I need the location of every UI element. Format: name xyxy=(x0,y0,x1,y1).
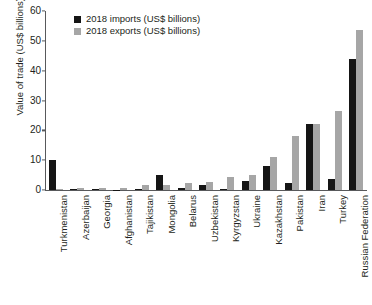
bar-exports xyxy=(142,185,149,190)
bars-layer xyxy=(45,11,367,190)
bar-imports xyxy=(178,188,185,190)
x-label-cell: Belarus xyxy=(174,193,195,305)
x-label-cell: Russian Federation xyxy=(346,193,367,305)
bar-imports xyxy=(199,185,206,190)
legend-item-exports: 2018 exports (US$ billions) xyxy=(74,26,200,36)
bar-imports xyxy=(135,189,142,190)
bar-group xyxy=(260,11,281,190)
bar-imports xyxy=(220,189,227,190)
bar-group xyxy=(66,11,87,190)
legend-item-imports: 2018 imports (US$ billions) xyxy=(74,14,200,24)
legend-swatch-imports-icon xyxy=(74,16,81,23)
x-label-cell: Mongolia xyxy=(152,193,173,305)
bar-imports xyxy=(328,179,335,190)
bar-imports xyxy=(92,189,99,190)
bar-exports xyxy=(356,30,363,190)
bar-imports xyxy=(263,166,270,190)
x-label-cell: Iran xyxy=(303,193,324,305)
legend-label-exports: 2018 exports (US$ billions) xyxy=(86,26,200,36)
bar-group xyxy=(152,11,173,190)
bar-group xyxy=(281,11,302,190)
bar-exports xyxy=(206,182,213,190)
bar-group xyxy=(346,11,367,190)
bar-exports xyxy=(227,177,234,190)
bar-group xyxy=(131,11,152,190)
legend-swatch-exports-icon xyxy=(74,28,81,35)
bar-exports xyxy=(120,188,127,190)
bar-group xyxy=(109,11,130,190)
plot-area: 0102030405060 xyxy=(45,11,367,190)
x-label-cell: Tajikistan xyxy=(131,193,152,305)
legend-label-imports: 2018 imports (US$ billions) xyxy=(86,14,200,24)
bar-exports xyxy=(99,188,106,190)
x-label-cell: Uzbekistan xyxy=(195,193,216,305)
x-label-cell: Pakistan xyxy=(281,193,302,305)
bar-imports xyxy=(349,59,356,190)
bar-imports xyxy=(306,124,313,190)
bar-group xyxy=(217,11,238,190)
bar-exports xyxy=(313,124,320,190)
bar-exports xyxy=(77,188,84,190)
chart-legend: 2018 imports (US$ billions) 2018 exports… xyxy=(74,14,200,37)
bar-imports xyxy=(70,189,77,190)
bar-exports xyxy=(335,111,342,190)
bar-exports xyxy=(185,183,192,190)
bar-group xyxy=(88,11,109,190)
x-tick-label: Russian Federation xyxy=(360,195,370,277)
bar-group xyxy=(303,11,324,190)
x-label-cell: Georgia xyxy=(88,193,109,305)
y-axis-title: Value of trade (US$ billions) xyxy=(15,0,25,137)
bar-imports xyxy=(242,181,249,190)
bar-exports xyxy=(163,185,170,190)
bar-group xyxy=(195,11,216,190)
bar-exports xyxy=(249,175,256,190)
bar-group xyxy=(238,11,259,190)
x-label-cell: Afghanistan xyxy=(109,193,130,305)
x-label-cell: Kazakhstan xyxy=(260,193,281,305)
bar-imports xyxy=(49,160,56,190)
x-label-cell: Ukraine xyxy=(238,193,259,305)
x-label-cell: Azerbaijan xyxy=(66,193,87,305)
bar-imports xyxy=(285,183,292,190)
bar-exports xyxy=(56,189,63,190)
x-label-cell: Kyrgyzstan xyxy=(217,193,238,305)
bar-group xyxy=(174,11,195,190)
bar-exports xyxy=(270,157,277,190)
bar-group xyxy=(45,11,66,190)
x-axis-line xyxy=(45,190,367,191)
x-axis-labels: TurkmenistanAzerbaijanGeorgiaAfghanistan… xyxy=(45,193,367,305)
bar-imports xyxy=(156,175,163,191)
bar-chart: Value of trade (US$ billions) 0102030405… xyxy=(0,0,372,305)
bar-group xyxy=(324,11,345,190)
x-label-cell: Turkmenistan xyxy=(45,193,66,305)
x-label-cell: Turkey xyxy=(324,193,345,305)
bar-exports xyxy=(292,136,299,190)
